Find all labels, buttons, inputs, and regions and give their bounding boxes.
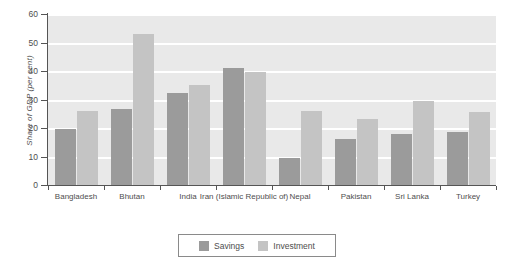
y-axis-tick (41, 128, 47, 129)
legend-swatch-investment-icon (258, 241, 268, 251)
y-axis-tick-label: 0 (2, 180, 38, 190)
bar-savings[interactable] (279, 158, 300, 185)
bar-investment[interactable] (413, 101, 434, 185)
x-axis-tick (384, 186, 385, 190)
x-axis-tick (216, 186, 217, 190)
y-axis-tick-label: 20 (2, 123, 38, 133)
bar-savings[interactable] (391, 134, 412, 185)
y-axis-tick (41, 157, 47, 158)
bar-investment[interactable] (245, 72, 266, 185)
y-axis-tick (41, 185, 47, 186)
y-axis-tick-label: 60 (2, 9, 38, 19)
bar-investment[interactable] (77, 111, 98, 185)
bar-group (160, 14, 216, 185)
x-axis-tick (104, 186, 105, 190)
chart-legend: Savings Investment (178, 234, 336, 257)
x-axis-tick (440, 186, 441, 190)
y-axis-tick (41, 43, 47, 44)
y-axis-tick-label: 50 (2, 38, 38, 48)
y-axis-tick (41, 14, 47, 15)
legend-item-savings[interactable]: Savings (199, 241, 244, 251)
bar-investment[interactable] (301, 111, 322, 185)
bars-layer (48, 14, 496, 185)
legend-label-savings: Savings (214, 241, 244, 251)
x-axis-tick (328, 186, 329, 190)
bar-investment[interactable] (189, 85, 210, 185)
bar-group (384, 14, 440, 185)
bar-savings[interactable] (167, 93, 188, 185)
bar-savings[interactable] (111, 109, 132, 185)
bar-investment[interactable] (469, 112, 490, 185)
x-axis-tick (160, 186, 161, 190)
bar-group (440, 14, 496, 185)
x-axis-tick (48, 186, 49, 190)
legend-label-investment: Investment (273, 241, 315, 251)
y-axis-tick (41, 71, 47, 72)
y-axis-tick (41, 100, 47, 101)
bar-investment[interactable] (133, 34, 154, 185)
bar-group (104, 14, 160, 185)
x-axis-tick (272, 186, 273, 190)
bar-group (216, 14, 272, 185)
legend-item-investment[interactable]: Investment (258, 241, 315, 251)
bar-group (272, 14, 328, 185)
savings-investment-bar-chart: Share of GDP (per cent) 0102030405060 Ba… (0, 0, 513, 267)
y-axis-tick-label: 30 (2, 95, 38, 105)
bar-group (48, 14, 104, 185)
bar-savings[interactable] (55, 129, 76, 185)
y-axis-tick-label: 10 (2, 152, 38, 162)
bar-investment[interactable] (357, 119, 378, 185)
legend-swatch-savings-icon (199, 241, 209, 251)
y-axis-tick-label: 40 (2, 66, 38, 76)
x-axis-tick (496, 186, 497, 190)
bar-savings[interactable] (335, 139, 356, 185)
bar-savings[interactable] (447, 132, 468, 185)
bar-group (328, 14, 384, 185)
bar-savings[interactable] (223, 68, 244, 185)
x-axis-label: Turkey (422, 192, 513, 202)
